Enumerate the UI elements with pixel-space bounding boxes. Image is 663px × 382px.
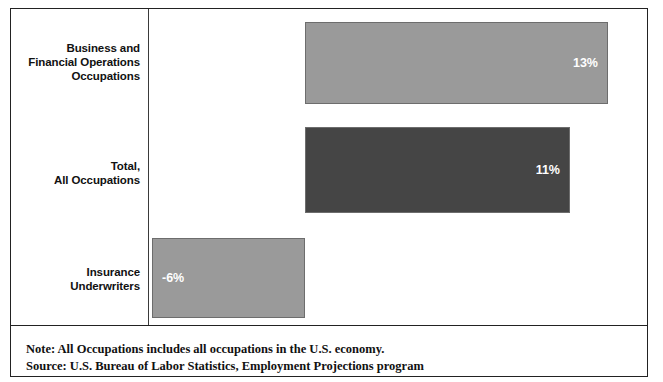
chart-note: Note: All Occupations includes all occup… [26,341,636,358]
bar-total-all-occupations: 11% [305,127,570,213]
chart-source: Source: U.S. Bureau of Labor Statistics,… [26,358,636,375]
bar-value-label: 11% [536,163,560,177]
chart-footnotes: Note: All Occupations includes all occup… [26,341,636,375]
bar-chart-figure: Business and Financial Operations Occupa… [0,0,663,382]
bar-value-label: 13% [573,56,598,70]
bar-insurance-underwriters: -6% [152,238,305,318]
bar-business-financial-operations: 13% [305,22,608,104]
bar-value-label: -6% [162,271,184,285]
bar-series: 13% 11% -6% [0,0,663,326]
